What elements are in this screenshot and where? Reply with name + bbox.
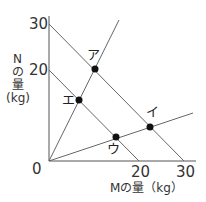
line-sum-20	[49, 70, 139, 161]
point-a	[92, 66, 99, 73]
line-shallow	[49, 113, 193, 161]
x-axis-label: Mの量（kg）	[110, 181, 183, 195]
point-e-label: エ	[62, 92, 75, 107]
x-tick-20: 20	[131, 163, 150, 181]
point-u	[113, 134, 120, 141]
point-u-label: ウ	[107, 141, 120, 156]
line-steep	[49, 20, 119, 161]
point-i-label: イ	[146, 104, 159, 119]
graph: ア エ イ ウ 30 20 N の 量 (kg) 0 20 30 Mの量（kg）	[0, 0, 206, 202]
point-i	[147, 124, 154, 131]
point-a-label: ア	[87, 47, 100, 62]
y-label-unit: (kg)	[6, 91, 30, 105]
origin-label: 0	[32, 160, 42, 178]
y-tick-20: 20	[29, 61, 48, 79]
y-label-n: N	[13, 52, 22, 66]
x-tick-30: 30	[176, 163, 195, 181]
y-tick-30: 30	[29, 15, 48, 33]
y-label-ryo: 量	[12, 78, 24, 92]
point-e	[76, 97, 83, 104]
y-label-no: の	[12, 65, 24, 79]
